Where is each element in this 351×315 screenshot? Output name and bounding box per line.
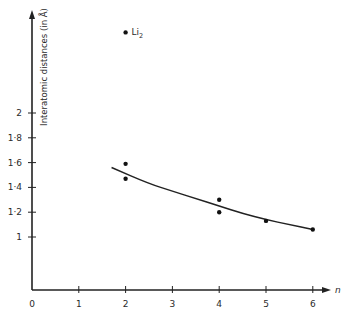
y-tick-label: 1·8 [8, 133, 23, 143]
interatomic-distance-plot: 012345611·21·41·61·82nInteratomic distan… [0, 0, 351, 315]
data-point [217, 210, 221, 214]
y-tick-label: 1·4 [8, 182, 23, 192]
labels: 012345611·21·41·61·82nInteratomic distan… [8, 8, 341, 309]
x-tick-label: 0 [29, 299, 35, 309]
y-axis-label: Interatomic distances (in Å) [38, 8, 49, 126]
fitted-curve [112, 168, 313, 230]
axes [29, 10, 331, 293]
li2-annotation: Li2 [132, 27, 144, 40]
data-point [123, 30, 127, 34]
data-point [264, 219, 268, 223]
y-tick-label: 2 [16, 108, 22, 118]
data-point [311, 227, 315, 231]
x-tick-label: 3 [170, 299, 176, 309]
x-tick-label: 6 [310, 299, 316, 309]
y-tick-label: 1·2 [8, 207, 22, 217]
fitted-curve-line [112, 168, 313, 230]
data-point [123, 177, 127, 181]
x-tick-label: 2 [123, 299, 129, 309]
tick-marks [28, 113, 313, 293]
x-tick-label: 5 [263, 299, 269, 309]
y-tick-label: 1·6 [8, 158, 23, 168]
y-axis-arrow-icon [29, 10, 35, 19]
x-tick-label: 1 [76, 299, 82, 309]
x-tick-label: 4 [216, 299, 222, 309]
data-points [123, 30, 315, 232]
data-point [217, 198, 221, 202]
y-tick-label: 1 [16, 232, 22, 242]
x-axis-arrow-icon [322, 287, 331, 293]
chart: 012345611·21·41·61·82nInteratomic distan… [0, 0, 351, 315]
x-axis-label: n [335, 285, 341, 295]
data-point [123, 162, 127, 166]
